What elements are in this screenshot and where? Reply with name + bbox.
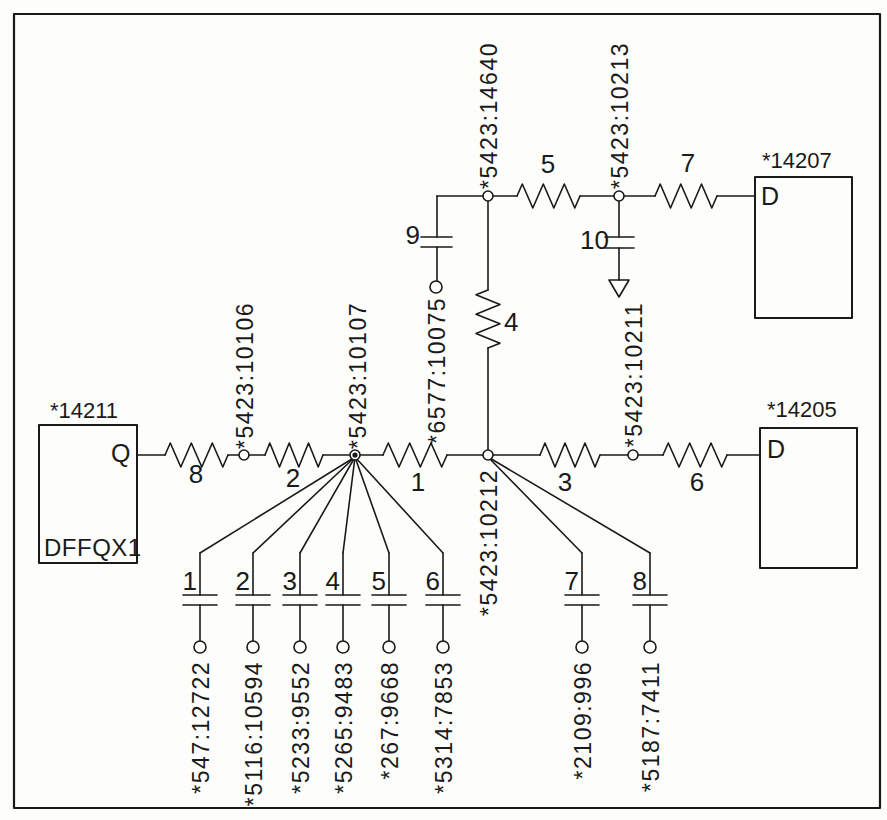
terminal-label-c8: *5187:7411 [639,661,663,792]
node-10212-dot [483,450,493,460]
resistor-8-number: 8 [181,461,211,487]
node-label-10106: *5423:10106 [233,302,257,449]
resistor-2-number: 2 [278,465,308,491]
resistor-1-number: 1 [403,469,433,495]
node-label-10211: *5423:10211 [622,302,646,447]
terminal-label-c6: *5314:7853 [432,661,456,794]
capacitor-10-number: 10 [580,227,620,253]
load-top-pin-d: D [761,184,779,209]
terminal-label-c5: *267:9668 [378,661,402,779]
resistor-7-number: 7 [673,150,703,176]
capacitor-5 [372,595,406,653]
capacitor-9-number: 9 [390,222,420,248]
resistor-6 [663,443,727,467]
node-10213-dot [614,191,624,201]
node-10107-center [353,453,357,457]
terminal-label-c1: *547:12722 [189,661,213,794]
node-label-10213: *5423:10213 [608,42,632,189]
node-10211-dot [628,450,638,460]
resistor-4-number: 4 [504,309,534,335]
node-label-10212: *5423:10212 [477,469,501,616]
capacitor-6 [426,595,460,653]
resistor-3 [540,443,600,467]
capacitor-7 [565,595,599,653]
dff-pin-q: Q [111,441,130,466]
dff-instance-name: *14211 [50,400,118,422]
node-14640-dot [483,191,493,201]
capacitor-3-number: 3 [267,568,297,594]
resistor-3-number: 3 [550,469,580,495]
ground-symbol [609,280,629,297]
capacitor-1 [183,595,217,653]
capacitor-6-number: 6 [410,568,440,594]
node-10106-dot [239,450,249,460]
capacitor-7-number: 7 [549,568,579,594]
capacitor-4 [326,595,360,653]
resistor-7 [655,184,717,208]
resistor-5 [517,184,580,208]
load-right-pin-d: D [767,437,785,462]
resistor-6-number: 6 [682,469,712,495]
terminal-label-c9: *6577:10075 [425,297,449,444]
capacitor-9 [421,196,452,293]
resistor-5-number: 5 [533,151,563,177]
capacitor-8 [633,595,667,653]
capacitor-1-number: 1 [167,568,197,594]
terminal-label-c7: *2109:996 [571,661,595,779]
capacitor-3 [283,595,317,653]
resistor-4 [476,290,500,348]
load-top-instance-name: *14207 [762,150,832,172]
terminal-label-c3: *5233:9552 [289,661,313,794]
dff-cell-name: DFFQX1 [44,536,142,560]
terminal-label-c4: *5265:9483 [332,661,356,794]
load-right-instance-name: *14205 [767,399,837,421]
terminal-label-c2: *5116:10594 [242,661,266,806]
capacitor-5-number: 5 [356,568,386,594]
capacitor-2 [236,595,270,653]
capacitor-2-number: 2 [220,568,250,594]
schematic-page: *14211 Q DFFQX1 *14207 D *14205 D 8 2 1 … [0,0,887,820]
node-label-14640: *5423:14640 [477,42,501,189]
node-label-10107: *5423:10107 [346,302,370,449]
capacitor-8-number: 8 [617,568,647,594]
resistor-1 [383,443,447,467]
capacitor-4-number: 4 [310,568,340,594]
